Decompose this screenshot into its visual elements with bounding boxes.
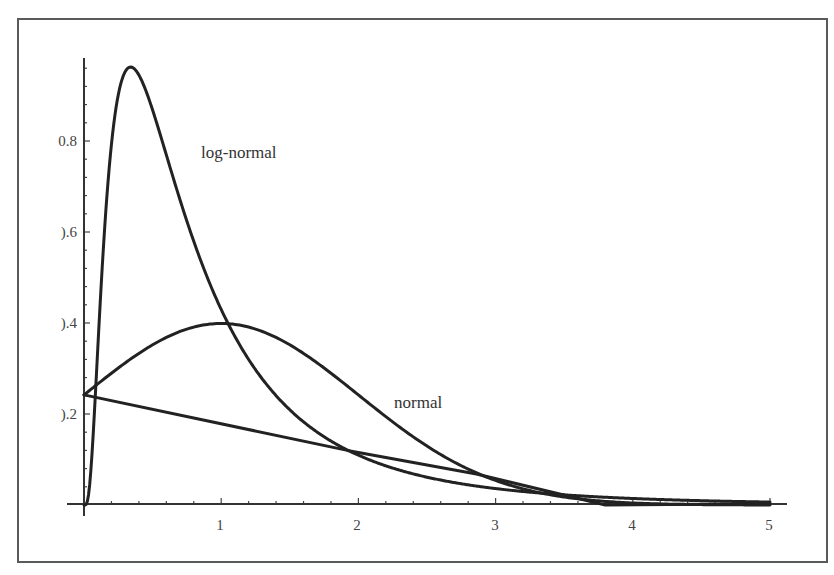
x-tick-labels: 1 2 3 4 5 — [216, 517, 773, 533]
y-tick-label-0.6: ).6 — [61, 224, 78, 241]
x-tick-label-4: 4 — [628, 517, 636, 533]
y-tick-label-0.2: ).2 — [61, 406, 77, 423]
y-tick-label-0.4: ).4 — [61, 315, 78, 332]
log-normal-curve — [84, 67, 770, 505]
minor-ticks — [84, 68, 770, 504]
chart-plot: 1 2 3 4 5 ).2 ).4 ).6 0.8 log-normal nor… — [0, 0, 834, 575]
normal-label: normal — [394, 393, 442, 412]
y-tick-labels: ).2 ).4 ).6 0.8 — [58, 133, 77, 423]
log-normal-label: log-normal — [201, 143, 277, 162]
x-tick-label-2: 2 — [353, 517, 361, 533]
y-tick-label-0.8: 0.8 — [58, 133, 77, 149]
x-tick-label-1: 1 — [216, 517, 224, 533]
x-tick-label-3: 3 — [491, 517, 499, 533]
x-tick-label-5: 5 — [765, 517, 773, 533]
